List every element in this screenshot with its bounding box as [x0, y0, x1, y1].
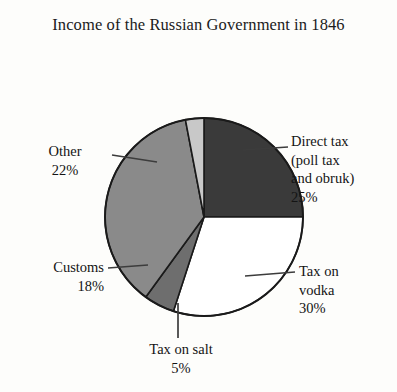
pie-chart-figure: Income of the Russian Government in 1846…	[0, 0, 397, 392]
slice-label-direct-tax-line-3: and obruk)	[291, 169, 354, 188]
slice-value-customs: 18%	[4, 277, 104, 296]
slice-value-tax-on-salt: 5%	[118, 359, 244, 378]
slice-value-other: 22%	[20, 161, 110, 180]
slice-label-customs: Customs 18%	[4, 258, 104, 295]
slice-label-direct-tax-line-2: (poll tax	[291, 151, 354, 170]
slice-label-tax-on-vodka: Tax on vodka 30%	[299, 262, 339, 318]
slice-label-direct-tax-line-1: Direct tax	[291, 132, 354, 151]
slice-label-tax-on-salt-line-1: Tax on salt	[118, 340, 244, 359]
slice-label-other: Other 22%	[20, 142, 110, 179]
slice-value-direct-tax: 25%	[291, 188, 354, 207]
pie-slice-direct-tax	[204, 118, 303, 217]
slice-label-tax-on-vodka-line-1: Tax on	[299, 262, 339, 281]
slice-label-direct-tax: Direct tax (poll tax and obruk) 25%	[291, 132, 354, 206]
slice-label-tax-on-vodka-line-2: vodka	[299, 281, 339, 300]
slice-label-other-line-1: Other	[20, 142, 110, 161]
slice-label-tax-on-salt: Tax on salt 5%	[118, 340, 244, 377]
slice-value-tax-on-vodka: 30%	[299, 299, 339, 318]
slice-label-customs-line-1: Customs	[4, 258, 104, 277]
